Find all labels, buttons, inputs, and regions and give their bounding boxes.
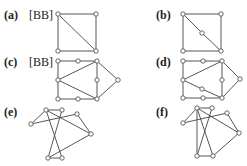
graph-vertex [210, 106, 214, 110]
graph-vertex [201, 59, 205, 63]
graph-vertex [220, 96, 224, 100]
graph-canvas [0, 0, 247, 166]
graph-vertex [56, 78, 60, 82]
graph-vertex [219, 12, 223, 16]
panel-a-ref: [BB] [29, 9, 53, 21]
panel-a-label: (a) [4, 9, 18, 21]
graph-edge [202, 33, 221, 51]
graph-edge [197, 108, 239, 133]
graph-vertex [220, 59, 224, 63]
panel-c-label: (c) [4, 56, 17, 68]
graph-vertex [29, 122, 33, 126]
graph-panel-d [181, 59, 242, 100]
graph-panel-e [29, 108, 93, 160]
graph-vertex [181, 49, 185, 53]
graph-vertex [200, 31, 204, 35]
graph-vertex [60, 156, 64, 160]
graph-edge [222, 61, 240, 79]
graph-panel-c [56, 59, 120, 101]
graph-vertex [238, 77, 242, 81]
graph-vertex [195, 106, 199, 110]
graph-edge [183, 14, 202, 33]
graph-edge [58, 61, 97, 80]
graph-vertex [89, 132, 93, 136]
graph-edge [213, 133, 239, 156]
graph-vertex [46, 156, 50, 160]
graph-vertex [56, 12, 60, 16]
graph-vertex [44, 108, 48, 112]
panel-c-ref: [BB] [29, 56, 53, 68]
graph-vertex [219, 49, 223, 53]
graph-vertex [225, 111, 229, 115]
graph-edge [31, 110, 46, 124]
graph-panel-f [181, 106, 241, 158]
panel-b-label: (b) [156, 9, 171, 21]
graph-vertex [116, 78, 120, 82]
graph-vertex [56, 59, 60, 63]
panel-e-label: (e) [4, 106, 17, 118]
graph-vertex [211, 154, 215, 158]
graph-vertex [181, 121, 185, 125]
graph-edge [222, 79, 240, 98]
graph-edge [97, 61, 118, 80]
panel-d-label: (d) [156, 56, 171, 68]
graph-vertex [56, 49, 60, 53]
graph-panel-b [181, 12, 223, 53]
graph-vertex [181, 12, 185, 16]
graph-edge [97, 80, 118, 99]
graph-edge [58, 80, 97, 99]
graph-vertex [237, 131, 241, 135]
graph-edge [183, 80, 202, 89]
graph-vertex [201, 96, 205, 100]
graph-panel-a [56, 12, 98, 53]
graph-vertex [94, 12, 98, 16]
graph-edge [77, 114, 91, 134]
graph-vertex [181, 59, 185, 63]
graph-vertex [95, 97, 99, 101]
graph-vertex [195, 154, 199, 158]
panel-f-label: (f) [156, 106, 168, 118]
graph-vertex [94, 49, 98, 53]
graph-vertex [181, 78, 185, 82]
graph-vertex [56, 97, 60, 101]
graph-vertex [95, 78, 99, 82]
graph-vertex [76, 97, 80, 101]
graph-vertex [60, 108, 64, 112]
graph-vertex [76, 59, 80, 63]
graph-edge [48, 134, 91, 158]
graph-edge [58, 14, 96, 51]
graph-vertex [181, 96, 185, 100]
graph-edge [227, 113, 239, 133]
graph-edge [183, 61, 222, 80]
graph-vertex [75, 112, 79, 116]
graph-vertex [220, 78, 224, 82]
graph-vertex [200, 87, 204, 91]
graph-vertex [95, 59, 99, 63]
